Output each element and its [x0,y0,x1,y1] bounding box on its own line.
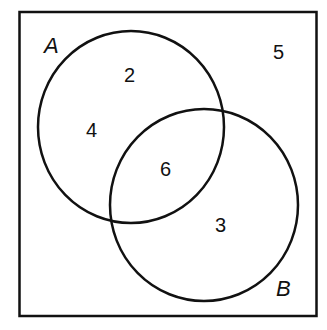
venn-diagram: A B 5 2 4 6 3 [0,0,327,330]
set-b-circle [110,109,298,301]
set-a-circle [38,31,224,223]
a-only-value-1: 2 [124,64,135,86]
intersection-value: 6 [160,158,171,180]
set-b-label: B [276,276,291,301]
a-only-value-2: 4 [86,119,97,141]
set-a-label: A [42,33,59,58]
b-only-value: 3 [215,214,226,236]
universe-value: 5 [273,41,284,63]
